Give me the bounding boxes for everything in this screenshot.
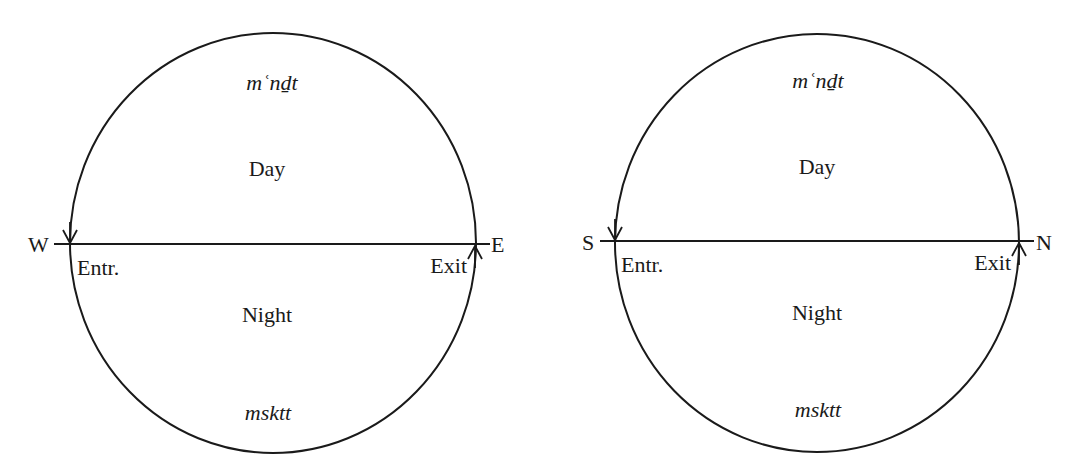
transliteration-bottom: msktt bbox=[245, 400, 292, 425]
transliteration-top: mʿnḏt bbox=[792, 68, 844, 93]
exit-label: Exit bbox=[974, 250, 1011, 275]
day-label: Day bbox=[799, 154, 836, 179]
diagram-canvas: mʿnḏt Day Night msktt W E Entr. Exit mʿn… bbox=[0, 0, 1075, 473]
entry-label: Entr. bbox=[77, 255, 119, 280]
entry-label: Entr. bbox=[621, 252, 663, 277]
arrow-down-icon bbox=[63, 222, 77, 243]
night-label: Night bbox=[792, 300, 842, 325]
exit-label: Exit bbox=[430, 253, 467, 278]
day-label: Day bbox=[249, 156, 286, 181]
arrow-up-icon bbox=[468, 246, 482, 268]
direction-south: S bbox=[582, 230, 594, 255]
direction-east: E bbox=[491, 232, 504, 257]
direction-west: W bbox=[28, 232, 49, 257]
right-diagram: mʿnḏt Day Night msktt S N Entr. Exit bbox=[582, 34, 1052, 452]
night-label: Night bbox=[242, 302, 292, 327]
left-diagram: mʿnḏt Day Night msktt W E Entr. Exit bbox=[28, 33, 504, 453]
orbit-circle bbox=[615, 34, 1019, 452]
transliteration-top: mʿnḏt bbox=[246, 70, 298, 95]
transliteration-bottom: msktt bbox=[795, 397, 842, 422]
arrow-down-icon bbox=[608, 219, 622, 240]
arrow-up-icon bbox=[1012, 243, 1026, 265]
direction-north: N bbox=[1036, 230, 1052, 255]
